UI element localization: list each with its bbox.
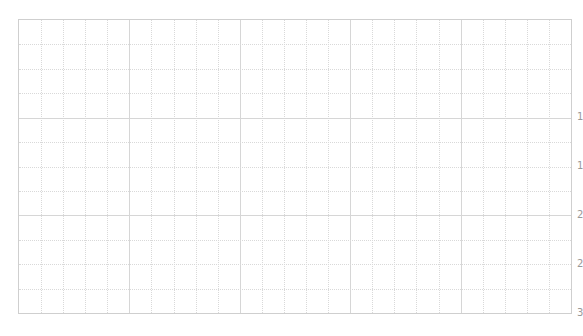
minor-gridline-horizontal (19, 142, 571, 143)
minor-gridline-horizontal (19, 191, 571, 192)
minor-gridline-horizontal (19, 167, 571, 168)
major-gridline-horizontal (19, 215, 571, 216)
plot-area (18, 19, 572, 314)
minor-gridline-horizontal (19, 240, 571, 241)
major-gridline-horizontal (19, 118, 571, 119)
minor-gridline-horizontal (19, 264, 571, 265)
y-tick-label: 2 (577, 259, 583, 269)
y-tick-label: 2 (577, 210, 583, 220)
y-tick-label: 1 (577, 161, 583, 171)
minor-gridline-horizontal (19, 69, 571, 70)
minor-gridline-horizontal (19, 93, 571, 94)
y-tick-label: 1 (577, 112, 583, 122)
minor-gridline-horizontal (19, 289, 571, 290)
y-tick-label: 3 (577, 308, 583, 318)
minor-gridline-horizontal (19, 44, 571, 45)
